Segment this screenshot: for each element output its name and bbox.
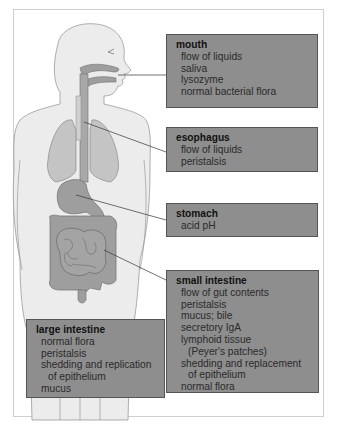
esophagus-label-box: esophagus flow of liquids peristalsis xyxy=(166,127,318,172)
large-intestine-item: mucus xyxy=(36,383,158,395)
large-intestine-title: large intestine xyxy=(36,324,158,336)
esophagus-item: flow of liquids xyxy=(176,144,311,156)
mouth-item: lysozyme xyxy=(176,74,311,86)
large-intestine-label-box: large intestine normal flora peristalsis… xyxy=(26,319,165,398)
small-intestine-item: lymphoid tissue xyxy=(176,334,312,346)
small-intestine-item: peristalsis xyxy=(176,299,312,311)
small-intestine-item: shedding and replacement xyxy=(176,358,312,370)
mouth-item: normal bacterial flora xyxy=(176,86,311,98)
small-intestine-item: (Peyer's patches) xyxy=(176,346,312,358)
stomach-title: stomach xyxy=(176,208,311,220)
mouth-item: saliva xyxy=(176,63,311,75)
rectum xyxy=(78,290,86,303)
mouth-title: mouth xyxy=(176,39,311,51)
esophagus-title: esophagus xyxy=(176,132,311,144)
small-intestine-organ xyxy=(57,228,106,275)
large-intestine-item: normal flora xyxy=(36,336,158,348)
small-intestine-item: flow of gut contents xyxy=(176,287,312,299)
large-intestine-item: peristalsis xyxy=(36,348,158,360)
small-intestine-item: mucus; bile xyxy=(176,310,312,322)
large-intestine-item: of epithelium xyxy=(36,371,158,383)
mouth-item: flow of liquids xyxy=(176,51,311,63)
stomach-item: acid pH xyxy=(176,220,311,232)
esophagus-item: peristalsis xyxy=(176,156,311,168)
small-intestine-item: of epithelium xyxy=(176,369,312,381)
stomach-label-box: stomach acid pH xyxy=(166,203,318,237)
small-intestine-title: small intestine xyxy=(176,275,312,287)
mouth-label-box: mouth flow of liquids saliva lysozyme no… xyxy=(166,34,318,108)
large-intestine-item: shedding and replication xyxy=(36,359,158,371)
small-intestine-label-box: small intestine flow of gut contents per… xyxy=(166,270,319,393)
trachea xyxy=(76,96,81,140)
small-intestine-item: secretory IgA xyxy=(176,322,312,334)
small-intestine-item: normal flora xyxy=(176,381,312,393)
